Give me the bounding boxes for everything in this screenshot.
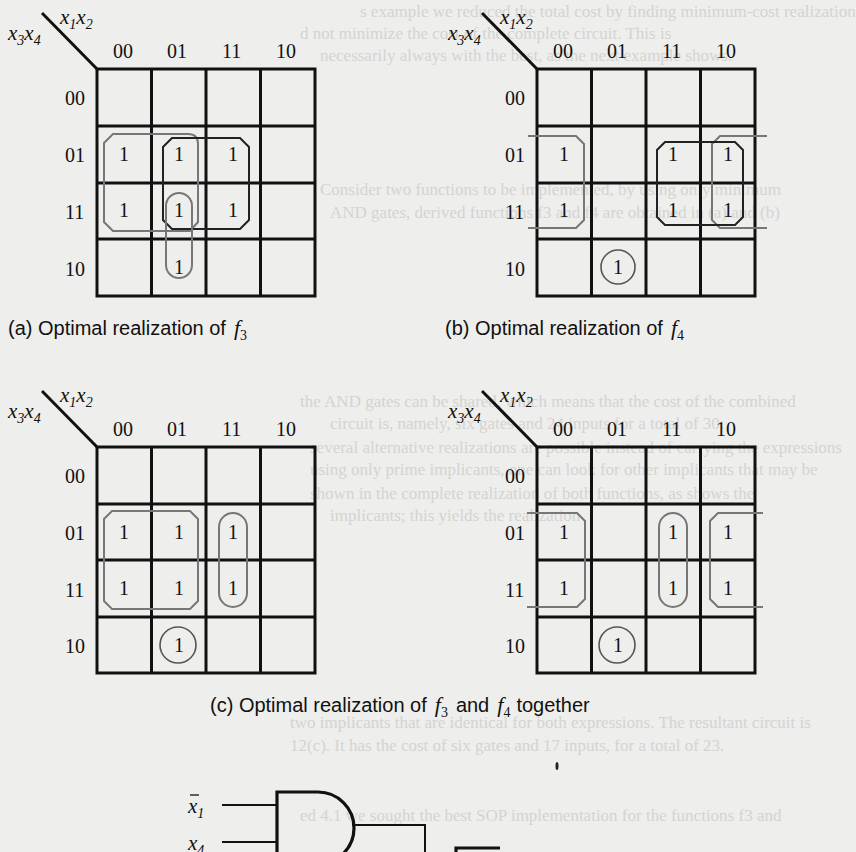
cell-value: 1 (723, 143, 733, 165)
kmap-grid (537, 447, 755, 673)
next-gate-icon (456, 848, 500, 852)
row-label: 10 (505, 635, 525, 657)
row-label: 11 (505, 579, 524, 601)
col-variable-label: x1x2 (59, 5, 93, 32)
kmap-b: x1x2 x3x4 00 01 11 10 00 01 11 10 1 1 1 … (445, 5, 767, 343)
col-variable-label: x1x2 (59, 383, 93, 410)
col-label: 10 (716, 418, 736, 440)
cell-value: 1 (228, 521, 238, 543)
col-label: 00 (553, 418, 573, 440)
col-label: 11 (662, 418, 681, 440)
col-label: 10 (276, 40, 296, 62)
cell-value: 1 (613, 256, 623, 278)
kmap-c-f4: x1x2 x3x4 00 01 11 10 00 01 11 10 1 1 1 … (447, 383, 763, 673)
col-label: 11 (222, 418, 241, 440)
cell-value: 1 (228, 143, 238, 165)
col-label: 01 (607, 418, 627, 440)
cell-value: 1 (668, 199, 678, 221)
cell-value: 1 (559, 577, 569, 599)
col-label: 11 (222, 40, 241, 62)
col-variable-label: x1x2 (499, 383, 533, 410)
row-variable-label: x3x4 (447, 399, 481, 426)
caption-b: (b) Optimal realization off4 (445, 315, 684, 343)
col-label: 11 (662, 40, 681, 62)
row-label: 00 (65, 87, 85, 109)
row-label: 00 (505, 465, 525, 487)
cell-value: 1 (228, 577, 238, 599)
row-label: 01 (505, 144, 525, 166)
row-label: 10 (65, 258, 85, 280)
col-label: 01 (167, 418, 187, 440)
kmap-a: x1x2 x3x4 00 01 11 10 00 01 11 10 1 1 1 … (7, 5, 315, 343)
cell-value: 1 (723, 577, 733, 599)
caption-c: (c) Optimal realization off3andf4togethe… (210, 692, 590, 720)
cell-value: 1 (174, 634, 184, 656)
kmap-c-f3: x1x2 x3x4 00 01 11 10 00 01 11 10 1 1 1 … (7, 383, 315, 673)
kmap-grid (97, 69, 315, 296)
cell-value: 1 (119, 199, 129, 221)
cell-value: 1 (174, 143, 184, 165)
col-variable-label: x1x2 (499, 5, 533, 32)
cell-value: 1 (668, 577, 678, 599)
cell-value: 1 (723, 199, 733, 221)
cell-value: 1 (559, 521, 569, 543)
col-label: 10 (716, 40, 736, 62)
input-label-x4: x4 (187, 831, 204, 852)
and-gate-icon (277, 792, 354, 852)
col-label: 00 (113, 40, 133, 62)
col-label: 01 (607, 40, 627, 62)
cell-value: 1 (613, 634, 623, 656)
row-label: 01 (65, 144, 85, 166)
row-label: 00 (505, 87, 525, 109)
cell-value: 1 (668, 521, 678, 543)
output-wire (352, 825, 425, 852)
input-label-x1-bar: x1 (187, 794, 204, 821)
row-label: 10 (505, 258, 525, 280)
kmap-grid (537, 69, 755, 296)
row-label: 11 (505, 201, 524, 223)
col-label: 00 (113, 418, 133, 440)
cell-value: 1 (119, 577, 129, 599)
row-label: 11 (65, 201, 84, 223)
cell-value: 1 (668, 143, 678, 165)
row-variable-label: x3x4 (7, 21, 41, 48)
cell-value: 1 (119, 143, 129, 165)
stray-mark (556, 762, 559, 770)
caption-a: (a) Optimal realization off3 (8, 315, 247, 343)
cell-value: 1 (174, 577, 184, 599)
row-variable-label: x3x4 (447, 21, 481, 48)
col-label: 00 (553, 40, 573, 62)
cell-value: 1 (174, 521, 184, 543)
col-label: 01 (167, 40, 187, 62)
row-label: 01 (65, 522, 85, 544)
cell-value: 1 (174, 256, 184, 278)
cell-value: 1 (723, 521, 733, 543)
col-label: 10 (276, 418, 296, 440)
row-variable-label: x3x4 (7, 399, 41, 426)
kmap-grid (97, 447, 315, 673)
and-gate-diagram: x1 x4 (187, 792, 500, 852)
row-label: 01 (505, 522, 525, 544)
row-label: 10 (65, 635, 85, 657)
cell-value: 1 (174, 199, 184, 221)
cell-value: 1 (559, 199, 569, 221)
cell-value: 1 (228, 199, 238, 221)
cell-value: 1 (559, 143, 569, 165)
cell-value: 1 (119, 521, 129, 543)
row-label: 00 (65, 465, 85, 487)
row-label: 11 (65, 579, 84, 601)
